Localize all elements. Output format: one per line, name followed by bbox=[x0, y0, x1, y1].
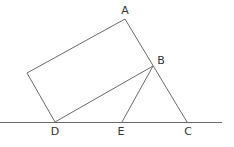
rectangle-side-db bbox=[55, 66, 153, 122]
label-c: C bbox=[184, 125, 192, 138]
geometry-diagram: A B C D E bbox=[0, 0, 234, 147]
label-e: E bbox=[118, 125, 125, 138]
label-d: D bbox=[51, 125, 59, 138]
line-ac bbox=[125, 19, 187, 122]
label-a: A bbox=[121, 4, 129, 17]
rectangle-side-af bbox=[27, 19, 125, 73]
rectangle-side-fd bbox=[27, 73, 55, 122]
label-b: B bbox=[157, 54, 165, 67]
